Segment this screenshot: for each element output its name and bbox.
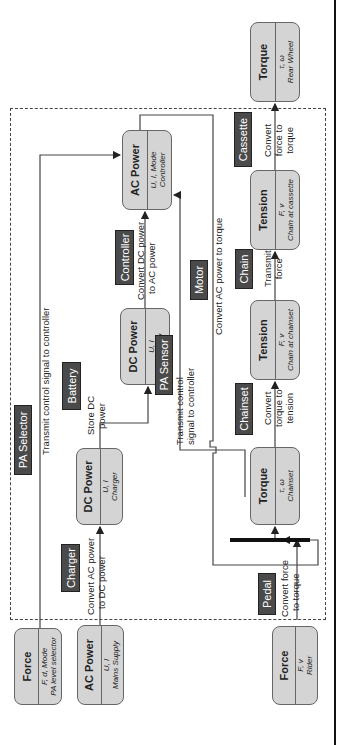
node-title: Force [15, 629, 39, 704]
function-chain: Transmit force [263, 250, 285, 287]
node-name: PA level selector [50, 637, 59, 696]
node-tension-chainset: Tension F, vChain at chainset [250, 300, 300, 380]
component-pedal: Pedal [258, 573, 276, 615]
node-name: Chain at cassette [287, 179, 296, 241]
node-dc-charger: DC Power U, ICharger [76, 448, 123, 525]
component-controller: Controller [115, 230, 134, 285]
diagram-canvas: Force F, d, ModePA level selector AC Pow… [0, 0, 343, 745]
component-pa-selector: PA Selector [14, 405, 32, 475]
function-line: force [274, 250, 285, 287]
node-name: Chainset [287, 470, 296, 502]
node-torque-chainset: Torque τ, ωChainset [250, 447, 300, 525]
node-name: Controller [159, 153, 168, 188]
node-title: AC Power [78, 626, 102, 704]
function-pa-sensor: Transmit control signal to controller [175, 368, 197, 445]
component-chain: Chain [235, 249, 253, 289]
node-title: AC Power [123, 131, 148, 209]
node-name: Rear Wheel [287, 41, 296, 83]
function-motor: Convert AC power to torque [214, 218, 225, 335]
function-charger: Convert AC power to DC power [86, 538, 108, 615]
node-ac-controller: AC Power U, I, ModeController [122, 130, 172, 210]
function-battery: Store DC power [86, 396, 108, 435]
function-line: tension [285, 390, 296, 428]
component-charger: Charger [61, 544, 80, 592]
node-name: Chain at chainset [287, 309, 296, 371]
function-line: torque [285, 124, 296, 157]
node-name: Charger [111, 472, 120, 501]
function-pedal: Convert force to torque [280, 560, 302, 617]
node-ac-mains: AC Power U, IMains Supply [77, 625, 124, 705]
pedal-bar [230, 538, 310, 542]
node-title: Tension [251, 171, 276, 249]
node-name: Mains Supply [112, 641, 121, 689]
function-line: power [97, 396, 108, 435]
function-line: signal to controller [186, 368, 197, 445]
function-pa-selector: Transmit control signal to controller [41, 308, 52, 455]
component-pa-sensor: PA Sensor [155, 335, 173, 395]
node-title: Torque [251, 448, 276, 524]
node-title: Torque [251, 23, 276, 101]
function-line: to DC power [97, 538, 108, 615]
node-title: DC Power [121, 309, 146, 384]
component-chainset: Chainset [235, 383, 253, 435]
node-force-pa-selector: Force F, d, ModePA level selector [14, 628, 62, 705]
node-title: DC Power [77, 449, 101, 524]
component-motor: Motor [190, 260, 208, 300]
component-battery: Battery [62, 362, 81, 410]
function-line: to torque [291, 560, 302, 617]
function-line: to AC power [147, 222, 158, 300]
function-chainset: Convert torque to tension [263, 390, 296, 428]
function-controller: Convert DC power to AC power [136, 222, 158, 300]
component-cassette: Cassette [234, 112, 252, 167]
node-name: Rider [306, 656, 315, 675]
function-cassette: Convert force to torque [263, 124, 296, 157]
node-title: Tension [251, 301, 276, 379]
node-force-rider: Force F, vRider [272, 626, 318, 705]
node-tension-cassette: Tension F, vChain at cassette [250, 170, 300, 250]
node-title: Force [273, 627, 296, 704]
node-torque-rear-wheel: Torque τ, ωRear Wheel [250, 22, 300, 102]
